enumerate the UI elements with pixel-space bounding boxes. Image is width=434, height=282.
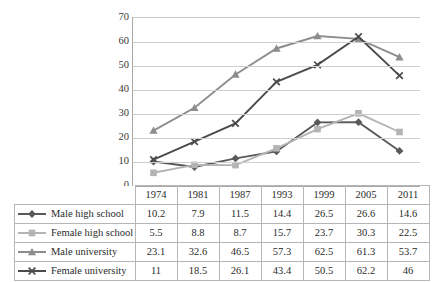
table-cell: 15.7 <box>261 224 303 243</box>
legend-swatch <box>17 265 47 277</box>
y-tick-label: 40 <box>119 83 130 95</box>
table-cell: 23.1 <box>135 243 177 262</box>
table-header-row: 1974198119871993199920052011 <box>15 186 430 205</box>
table-cell: 43.4 <box>261 262 303 281</box>
table-corner-cell <box>15 186 136 205</box>
y-tick-label: 50 <box>119 59 130 71</box>
line-chart: 706050403020100 <box>0 0 434 190</box>
legend-marker-cross <box>17 265 47 277</box>
series-line <box>154 122 400 167</box>
table-cell: 30.3 <box>345 224 387 243</box>
table-cell: 26.6 <box>345 205 387 224</box>
table-cell: 7.9 <box>177 205 219 224</box>
legend-label: Male university <box>51 243 117 261</box>
data-point-marker <box>28 210 36 218</box>
series-line <box>154 37 400 160</box>
data-point-marker <box>29 230 36 237</box>
data-table: 1974198119871993199920052011 Male high s… <box>14 185 430 281</box>
column-header-1993: 1993 <box>261 186 303 205</box>
table-row: Male university23.132.646.557.362.561.35… <box>15 243 430 262</box>
y-tick-label: 30 <box>119 107 130 119</box>
data-point-marker <box>396 72 403 79</box>
plot-area <box>132 17 420 186</box>
column-header-1987: 1987 <box>219 186 261 205</box>
table-cell: 8.8 <box>177 224 219 243</box>
table-cell: 11 <box>135 262 177 281</box>
legend-swatch <box>17 208 47 220</box>
table-cell: 46 <box>387 262 429 281</box>
chart-figure: 706050403020100 197419811987199319992005… <box>0 0 434 282</box>
column-header-2005: 2005 <box>345 186 387 205</box>
gridline <box>133 162 420 163</box>
data-point-marker <box>314 126 321 133</box>
legend-swatch <box>17 246 47 258</box>
gridline <box>133 90 420 91</box>
data-point-marker <box>231 70 239 77</box>
table-cell: 32.6 <box>177 243 219 262</box>
table-cell: 50.5 <box>303 262 345 281</box>
data-point-marker <box>149 126 157 133</box>
legend-marker-diamond <box>17 208 47 220</box>
table-cell: 18.5 <box>177 262 219 281</box>
legend-label: Female university <box>51 262 127 280</box>
data-point-marker <box>396 129 403 136</box>
gridline <box>133 114 420 115</box>
table-row: Female university1118.526.143.450.562.24… <box>15 262 430 281</box>
table-cell: 26.5 <box>303 205 345 224</box>
series-female-university <box>150 33 403 162</box>
data-point-marker <box>273 145 280 152</box>
table-cell: 11.5 <box>219 205 261 224</box>
table-cell: 14.6 <box>387 205 429 224</box>
legend-swatch <box>17 227 47 239</box>
legend-row-female-university: Female university <box>15 262 136 281</box>
y-tick-label: 10 <box>119 155 130 167</box>
table-cell: 62.2 <box>345 262 387 281</box>
table-cell: 57.3 <box>261 243 303 262</box>
table-row: Female high school5.58.88.715.723.730.32… <box>15 224 430 243</box>
legend-marker-triangle <box>17 246 47 258</box>
table-body: Male high school10.27.911.514.426.526.61… <box>15 205 430 281</box>
legend-label: Male high school <box>51 205 124 223</box>
column-header-1999: 1999 <box>303 186 345 205</box>
data-point-marker <box>150 170 157 177</box>
table-cell: 46.5 <box>219 243 261 262</box>
gridline <box>133 138 420 139</box>
table-cell: 26.1 <box>219 262 261 281</box>
table-cell: 53.7 <box>387 243 429 262</box>
table-cell: 61.3 <box>345 243 387 262</box>
y-tick-label: 60 <box>119 35 130 47</box>
column-header-1974: 1974 <box>135 186 177 205</box>
legend-marker-square <box>17 227 47 239</box>
legend-row-female-high-school: Female high school <box>15 224 136 243</box>
series-layer <box>133 18 420 186</box>
table-row: Male high school10.27.911.514.426.526.61… <box>15 205 430 224</box>
table-cell: 23.7 <box>303 224 345 243</box>
table-cell: 22.5 <box>387 224 429 243</box>
column-header-2011: 2011 <box>387 186 429 205</box>
table-cell: 5.5 <box>135 224 177 243</box>
table-cell: 62.5 <box>303 243 345 262</box>
gridline <box>133 42 420 43</box>
legend-label: Female high school <box>51 224 133 242</box>
table-cell: 14.4 <box>261 205 303 224</box>
y-axis: 706050403020100 <box>103 11 129 191</box>
series-female-high-school <box>150 110 403 176</box>
legend-row-male-university: Male university <box>15 243 136 262</box>
column-header-1981: 1981 <box>177 186 219 205</box>
table-cell: 8.7 <box>219 224 261 243</box>
table-cell: 10.2 <box>135 205 177 224</box>
y-tick-label: 70 <box>119 11 130 23</box>
y-tick-label: 20 <box>119 131 130 143</box>
legend-row-male-high-school: Male high school <box>15 205 136 224</box>
gridline <box>133 66 420 67</box>
